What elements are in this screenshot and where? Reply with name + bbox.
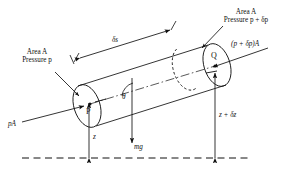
label-area-left: Area A <box>6 48 68 56</box>
label-point-p: P <box>86 108 90 116</box>
label-weight-mg: mg <box>134 143 143 151</box>
label-point-q: Q <box>211 52 217 60</box>
cylinder-top-edge <box>78 45 208 86</box>
axis-tick-near-p <box>95 99 106 102</box>
hidden-back-ellipse <box>167 47 196 94</box>
label-length-ds: δs <box>112 36 118 44</box>
label-height-z: z <box>93 133 96 141</box>
point-q-marker <box>214 65 217 68</box>
label-area-right: Area A <box>208 8 284 16</box>
cylinder-centerline <box>90 66 215 104</box>
left-tick-mark <box>70 55 74 64</box>
force-arrow-pa <box>22 106 84 122</box>
label-pressure-right: Pressure p + δp <box>208 16 284 24</box>
label-pressure-left: Pressure p <box>6 56 68 64</box>
length-dimension <box>74 21 176 62</box>
leader-left-label <box>55 72 79 96</box>
label-force-pa: pA <box>8 120 16 128</box>
leader-right-label <box>202 26 223 48</box>
fluid-element-diagram: Area A Pressure p Area A Pressure p + δp… <box>0 0 290 173</box>
label-height-z-dz: z + δz <box>219 111 236 119</box>
axis-tick-near-q <box>206 71 217 73</box>
cylinder-bottom-edge <box>96 85 226 126</box>
label-angle-theta: θ <box>122 93 126 101</box>
left-end-ellipse <box>68 81 106 131</box>
label-area-pressure-right: Area A Pressure p + δp <box>208 8 284 25</box>
diagram-canvas <box>0 0 290 173</box>
label-force-pdpa: (p + δp)A <box>231 40 259 48</box>
point-p-marker <box>89 103 92 106</box>
force-arrow-pdpa <box>213 48 268 67</box>
label-area-pressure-left: Area A Pressure p <box>6 48 68 65</box>
